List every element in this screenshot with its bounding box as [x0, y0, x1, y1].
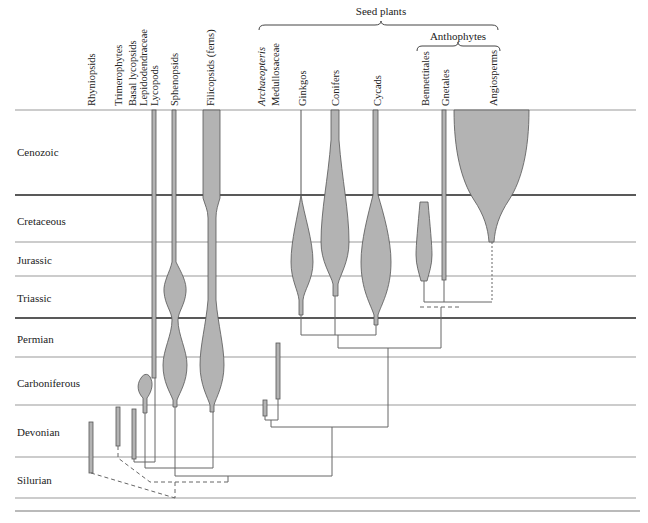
taxon-label-lycopods: Lycopods	[149, 65, 160, 106]
phylogeny-diagram: Seed plants Anthophytes Rhyniopsids Trim…	[0, 0, 648, 523]
period-label-cenozoic: Cenozoic	[17, 146, 59, 158]
period-label-carboniferous: Carboniferous	[17, 377, 80, 389]
trimerophytes-range	[116, 407, 120, 446]
period-label-devonian: Devonian	[17, 426, 60, 438]
taxon-label-archaeopteris: Archaeopteris	[256, 47, 267, 106]
taxon-label-lepidodendraceae: Lepidodendraceae	[138, 29, 149, 106]
rhyniopsids-range	[89, 422, 93, 473]
angiosperms-range	[454, 110, 529, 242]
taxon-label-medullosaceae: Medullosaceae	[270, 43, 281, 106]
period-label-silurian: Silurian	[17, 474, 52, 486]
lepidodendraceae-range	[138, 374, 152, 413]
bennettitales-range	[416, 202, 432, 281]
period-boundaries	[15, 110, 640, 511]
taxon-label-rhyniopsids: Rhyniopsids	[86, 53, 97, 106]
taxon-label-bennettitales: Bennettitales	[420, 51, 431, 106]
cycads-range	[361, 110, 391, 325]
taxon-label-basal-lycopsids: Basal lycopsids	[127, 40, 138, 106]
group-label-anthophytes: Anthophytes	[430, 30, 486, 42]
taxon-label-conifers: Conifers	[330, 70, 341, 106]
taxon-label-gnetales: Gnetales	[440, 69, 451, 106]
sphenopsids-range	[163, 110, 187, 407]
basal-lycopsids-range	[132, 409, 136, 459]
taxon-label-trimerophytes: Trimerophytes	[113, 45, 124, 106]
dashed-connectors	[91, 446, 228, 498]
archaeopteris-range	[263, 400, 267, 416]
period-label-triassic: Triassic	[17, 292, 51, 304]
cladogram-connectors	[134, 242, 492, 482]
period-label-jurassic: Jurassic	[17, 254, 52, 266]
diagram-canvas	[0, 0, 648, 523]
taxon-label-angiosperms: Angiosperms	[488, 50, 499, 106]
taxon-label-ginkgos: Ginkgos	[297, 70, 308, 106]
lycopods-range	[152, 110, 156, 378]
taxon-label-sphenopsids: Sphenopsids	[169, 53, 180, 106]
gnetales-range	[442, 110, 446, 280]
period-label-cretaceous: Cretaceous	[17, 215, 66, 227]
ginkgos-range	[291, 195, 313, 315]
group-label-seed-plants: Seed plants	[356, 5, 406, 17]
medullosaceae-range	[276, 343, 280, 399]
conifers-range	[321, 110, 349, 296]
taxon-label-filicopsids: Filicopsids (ferns)	[205, 29, 216, 106]
filicopsids-range	[200, 110, 224, 412]
taxon-label-cycads: Cycads	[372, 75, 383, 106]
period-label-permian: Permian	[17, 333, 54, 345]
